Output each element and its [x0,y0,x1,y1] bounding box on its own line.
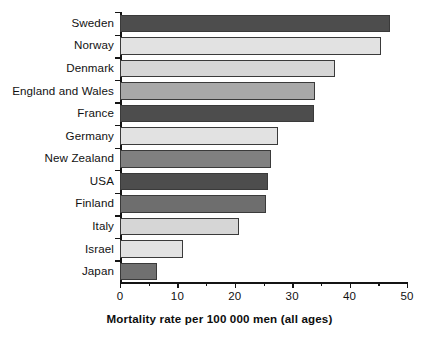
bar [120,60,335,78]
bar [120,37,381,55]
y-axis-category-label: Israel [0,242,114,255]
bar [120,240,183,258]
y-axis-category-label: Denmark [0,61,114,74]
x-axis-minor-tick [149,282,150,286]
bar [120,15,390,33]
bar [120,195,266,213]
x-axis-minor-tick [321,282,322,286]
y-axis-tick [115,80,120,81]
y-axis-tick [115,12,120,13]
x-axis-tick-label: 40 [343,290,356,302]
x-axis-minor-tick [264,282,265,286]
x-axis-minor-tick [378,282,379,286]
x-axis-major-tick [177,282,178,288]
x-axis-major-tick [407,282,408,288]
x-axis-major-tick [235,282,236,288]
plot-area [120,12,407,283]
x-axis-tick-label: 10 [171,290,184,302]
y-axis-category-label: New Zealand [0,151,114,164]
y-axis-tick [115,102,120,103]
x-axis-tick-label: 20 [228,290,241,302]
y-axis-category-label: Italy [0,219,114,232]
y-axis-category-label: Norway [0,38,114,51]
bar [120,263,157,281]
x-axis-minor-tick [206,282,207,286]
x-axis-major-tick [292,282,293,288]
y-axis-tick [115,57,120,58]
y-axis-tick [115,238,120,239]
x-axis-major-tick [120,282,121,288]
y-axis-tick [115,260,120,261]
bar [120,82,315,100]
y-axis-tick [115,193,120,194]
y-axis-tick [115,215,120,216]
y-axis-category-label: Germany [0,129,114,142]
x-axis-tick-label: 0 [117,290,124,302]
x-axis-tick-label: 50 [400,290,413,302]
y-axis-category-label: USA [0,174,114,187]
y-axis-category-label: Finland [0,196,114,209]
bar [120,218,239,236]
bar [120,105,314,123]
x-axis-title: Mortality rate per 100 000 men (all ages… [0,312,439,325]
x-axis-major-tick [350,282,351,288]
bar [120,173,268,191]
y-axis-tick [115,125,120,126]
bar [120,127,278,145]
bar [120,150,271,168]
x-axis-tick-label: 30 [286,290,299,302]
y-axis-category-label: France [0,106,114,119]
y-axis-category-label: Sweden [0,16,114,29]
y-axis-tick [115,148,120,149]
y-axis-category-label: England and Wales [0,84,114,97]
bar-chart: SwedenNorwayDenmarkEngland and WalesFran… [0,0,439,345]
y-axis-category-label: Japan [0,264,114,277]
y-axis-tick [115,35,120,36]
y-axis-tick [115,170,120,171]
